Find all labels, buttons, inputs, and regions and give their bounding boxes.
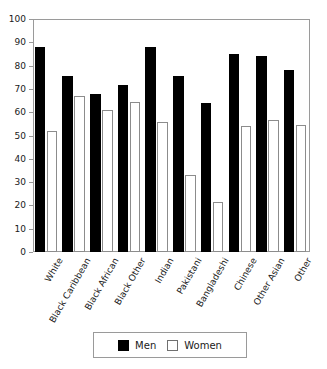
y-axis-tick-label: 20 <box>0 201 26 210</box>
bar-men <box>118 85 129 252</box>
bar-men <box>62 76 73 252</box>
legend-label-men: Men <box>135 340 156 351</box>
bar-group <box>229 19 252 252</box>
legend-item-women: Women <box>167 340 222 351</box>
bar-chart: 0102030405060708090100 WhiteBlack Caribb… <box>0 0 327 369</box>
bar-group <box>118 19 141 252</box>
bar-men <box>35 47 46 252</box>
legend-swatch-women-icon <box>167 340 178 351</box>
x-axis-label: Indian <box>153 256 176 285</box>
bar-women <box>130 102 141 252</box>
legend-swatch-men-icon <box>118 340 129 351</box>
bar-men <box>173 76 184 252</box>
bar-women <box>213 202 224 252</box>
bar-women <box>241 126 252 252</box>
bar-group <box>284 19 307 252</box>
bar-group <box>35 19 58 252</box>
bar-men <box>145 47 156 252</box>
y-axis-tick-label: 80 <box>0 61 26 70</box>
x-axis-category-labels: WhiteBlack CaribbeanBlack AfricanBlack O… <box>33 252 310 328</box>
legend-label-women: Women <box>184 340 222 351</box>
x-axis-label: Pakistani <box>174 256 203 296</box>
bar-men <box>284 70 295 252</box>
y-axis-tick-label: 60 <box>0 108 26 117</box>
bar-group <box>201 19 224 252</box>
chart-legend: Men Women <box>93 332 247 358</box>
y-axis-tick-label: 70 <box>0 84 26 93</box>
bar-men <box>201 103 212 252</box>
legend-item-men: Men <box>118 340 156 351</box>
y-axis-tick-label: 10 <box>0 224 26 233</box>
bar-women <box>185 175 196 252</box>
y-axis-tick-label: 30 <box>0 178 26 187</box>
bar-women <box>47 131 58 252</box>
bar-women <box>296 125 307 252</box>
x-axis-label: Chinese <box>232 256 259 292</box>
x-axis-label: Other <box>293 256 314 283</box>
bar-women <box>102 110 113 252</box>
bar-group <box>256 19 279 252</box>
y-axis-tick-label: 50 <box>0 131 26 140</box>
bars-layer <box>33 19 310 252</box>
bar-men <box>229 54 240 252</box>
bar-women <box>157 122 168 252</box>
y-axis-tick-label: 100 <box>0 15 26 24</box>
bar-women <box>74 96 85 252</box>
bar-men <box>90 94 101 252</box>
y-axis-tick-label: 40 <box>0 154 26 163</box>
bar-group <box>62 19 85 252</box>
x-axis-label: White <box>43 256 65 284</box>
y-axis-tick-label: 0 <box>0 248 26 257</box>
bar-group <box>145 19 168 252</box>
y-axis-tick-label: 90 <box>0 38 26 47</box>
bar-women <box>268 120 279 252</box>
bar-group <box>90 19 113 252</box>
bar-men <box>256 56 267 252</box>
y-axis: 0102030405060708090100 <box>0 19 33 252</box>
bar-group <box>173 19 196 252</box>
